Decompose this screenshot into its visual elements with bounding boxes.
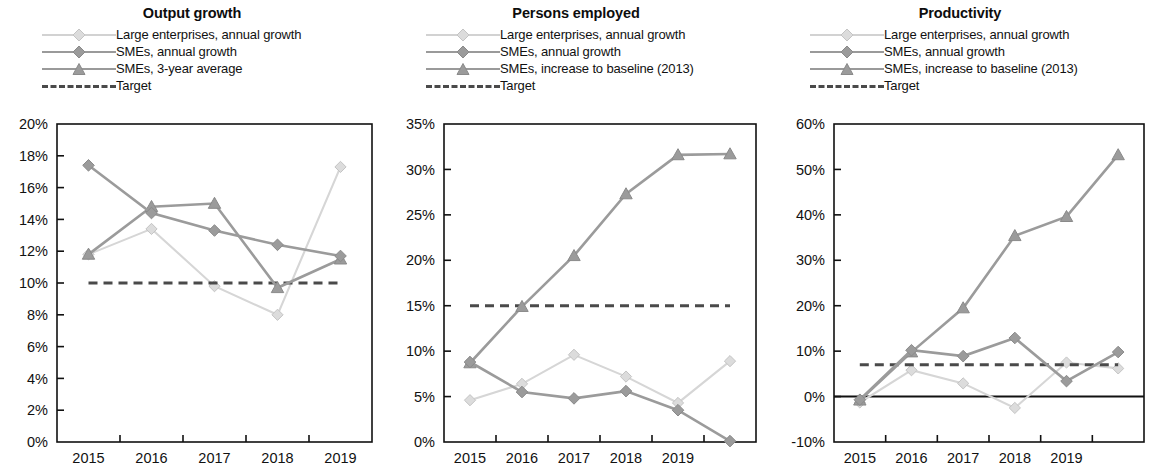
x-axis-tick-label: 2019 — [1050, 450, 1082, 466]
legend: Large enterprises, annual growth SMEs, a… — [384, 26, 768, 94]
y-axis-tick-label: 30% — [796, 252, 825, 268]
x-axis-tick-label: 2015 — [844, 450, 876, 466]
panel-title: Productivity — [768, 5, 1152, 21]
y-axis-tick-label: 14% — [19, 212, 48, 228]
y-axis-tick-label: 15% — [406, 298, 435, 314]
legend-label: SMEs, annual growth — [884, 44, 1005, 59]
panel-productivity: Productivity Large enterprises, annual g… — [768, 0, 1152, 474]
legend-label: Target — [116, 78, 151, 93]
y-axis-tick-label: 25% — [406, 207, 435, 223]
x-axis-tick-label: 2016 — [135, 450, 167, 466]
data-point-marker — [209, 225, 221, 237]
plot-area-productivity: -10%0%10%20%30%40%50%60%2015201620172018… — [768, 112, 1152, 474]
x-axis-tick-label: 2018 — [610, 450, 642, 466]
legend-item: Large enterprises, annual growth — [426, 26, 768, 43]
y-axis-tick-label: 5% — [414, 389, 435, 405]
y-axis-tick-label: 10% — [19, 275, 48, 291]
legend-item: SMEs, increase to baseline (2013) — [426, 60, 768, 77]
x-axis-tick-label: 2018 — [999, 450, 1031, 466]
legend-key-large-enterprises — [42, 27, 116, 43]
x-axis-tick-label: 2019 — [324, 450, 356, 466]
legend-item: SMEs, 3-year average — [42, 60, 384, 77]
series-line — [89, 204, 341, 288]
legend-key-smes-baseline — [426, 61, 500, 77]
legend-label: Target — [884, 78, 919, 93]
legend-label: SMEs, increase to baseline (2013) — [500, 61, 694, 76]
legend: Large enterprises, annual growth SMEs, a… — [768, 26, 1152, 94]
series-line — [89, 165, 341, 256]
legend-label: Large enterprises, annual growth — [500, 27, 685, 42]
x-axis-tick-label: 2015 — [454, 450, 486, 466]
plot-frame — [834, 124, 1144, 442]
y-axis-tick-label: 8% — [27, 307, 48, 323]
legend-key-smes-annual — [426, 44, 500, 60]
chart-panel-group: Output growth Large enterprises, annual … — [0, 0, 1152, 474]
legend-item: SMEs, annual growth — [810, 43, 1152, 60]
legend-label: SMEs, 3-year average — [116, 61, 242, 76]
legend-label: Target — [500, 78, 535, 93]
y-axis-tick-label: 50% — [796, 162, 825, 178]
y-axis-tick-label: 0% — [414, 434, 435, 450]
data-point-marker — [568, 393, 580, 405]
x-axis-tick-label: 2016 — [506, 450, 538, 466]
legend-key-target — [810, 78, 884, 94]
panel-title: Output growth — [0, 5, 384, 21]
plot-area-persons-employed: 0%5%10%15%20%25%30%35%201520162017201820… — [384, 112, 768, 474]
data-point-marker — [272, 239, 284, 251]
y-axis-tick-label: 60% — [796, 116, 825, 132]
legend-label: Large enterprises, annual growth — [116, 27, 301, 42]
legend-item: Target — [42, 77, 384, 94]
data-point-marker — [516, 386, 528, 398]
legend-item: Target — [810, 77, 1152, 94]
legend: Large enterprises, annual growth SMEs, a… — [0, 26, 384, 94]
data-point-marker — [906, 365, 917, 376]
data-point-marker — [958, 378, 969, 389]
panel-persons-employed: Persons employed Large enterprises, annu… — [384, 0, 768, 474]
y-axis-tick-label: 6% — [27, 339, 48, 355]
y-axis-tick-label: 18% — [19, 148, 48, 164]
legend-item: SMEs, increase to baseline (2013) — [810, 60, 1152, 77]
y-axis-tick-label: -10% — [791, 434, 825, 450]
data-point-marker — [724, 435, 736, 447]
data-point-marker — [672, 404, 684, 416]
x-axis-tick-label: 2016 — [895, 450, 927, 466]
data-point-marker — [568, 349, 579, 360]
series-line — [860, 338, 1118, 400]
legend-item: Target — [426, 77, 768, 94]
legend-label: SMEs, increase to baseline (2013) — [884, 61, 1078, 76]
legend-label: SMEs, annual growth — [500, 44, 621, 59]
legend-key-large-enterprises — [810, 27, 884, 43]
data-point-marker — [1112, 149, 1124, 160]
legend-key-large-enterprises — [426, 27, 500, 43]
y-axis-tick-label: 10% — [406, 343, 435, 359]
data-point-marker — [957, 350, 969, 362]
legend-key-target — [426, 78, 500, 94]
legend-label: SMEs, annual growth — [116, 44, 237, 59]
legend-item: SMEs, annual growth — [42, 43, 384, 60]
y-axis-tick-label: 30% — [406, 162, 435, 178]
y-axis-tick-label: 10% — [796, 343, 825, 359]
y-axis-tick-label: 0% — [27, 434, 48, 450]
data-point-marker — [272, 309, 283, 320]
data-point-marker — [464, 395, 475, 406]
panel-title: Persons employed — [384, 5, 768, 21]
legend-key-smes-annual — [42, 44, 116, 60]
y-axis-tick-label: 20% — [796, 298, 825, 314]
y-axis-tick-label: 40% — [796, 207, 825, 223]
legend-key-smes-annual — [810, 44, 884, 60]
data-point-marker — [335, 161, 346, 172]
legend-item: Large enterprises, annual growth — [810, 26, 1152, 43]
legend-key-target — [42, 78, 116, 94]
y-axis-tick-label: 4% — [27, 371, 48, 387]
series-line — [860, 363, 1118, 408]
data-point-marker — [620, 385, 632, 397]
x-axis-tick-label: 2018 — [261, 450, 293, 466]
legend-key-smes-average — [42, 61, 116, 77]
legend-label: Large enterprises, annual growth — [884, 27, 1069, 42]
plot-area-output-growth: 0%2%4%6%8%10%12%14%16%18%20%201520162017… — [0, 112, 384, 474]
series-line — [470, 154, 730, 363]
y-axis-tick-label: 0% — [804, 389, 825, 405]
legend-key-smes-baseline — [810, 61, 884, 77]
y-axis-tick-label: 20% — [406, 252, 435, 268]
series-line — [89, 167, 341, 315]
